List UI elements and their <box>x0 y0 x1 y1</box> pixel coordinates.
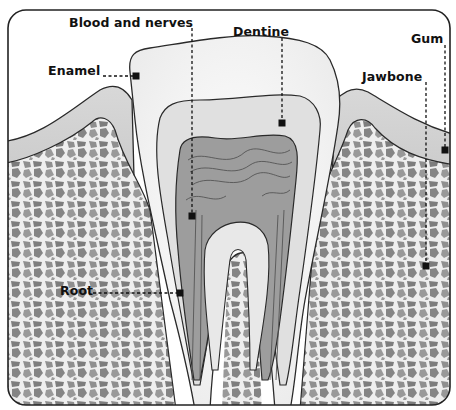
dot-gum <box>442 147 449 154</box>
label-enamel: Enamel <box>48 63 100 78</box>
tooth-diagram <box>0 0 456 410</box>
label-jawbone: Jawbone <box>362 69 422 84</box>
label-blood-and-nerves: Blood and nerves <box>69 15 193 30</box>
dot-blood-and-nerves <box>189 213 196 220</box>
dot-jawbone <box>423 263 430 270</box>
dot-root <box>177 290 184 297</box>
label-root: Root <box>60 283 93 298</box>
label-dentine: Dentine <box>233 24 289 39</box>
dot-dentine <box>279 120 286 127</box>
dot-enamel <box>133 73 140 80</box>
label-gum: Gum <box>411 31 443 46</box>
